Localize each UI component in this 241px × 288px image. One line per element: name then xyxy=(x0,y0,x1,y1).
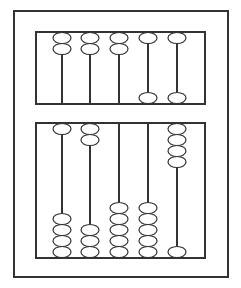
lower-deck-bead xyxy=(110,247,128,258)
lower-deck-bead xyxy=(110,236,128,247)
upper-deck-bead xyxy=(168,93,186,104)
lower-deck-bead xyxy=(110,225,128,236)
lower-deck-bead xyxy=(53,236,71,247)
upper-deck-bead xyxy=(110,44,128,55)
lower-deck-bead xyxy=(53,225,71,236)
lower-deck-bead xyxy=(139,247,157,258)
lower-deck-bead xyxy=(168,146,186,157)
upper-deck-bead xyxy=(81,33,99,44)
lower-deck-bead xyxy=(81,124,99,135)
upper-deck-bead xyxy=(53,33,71,44)
lower-deck-bead xyxy=(168,135,186,146)
upper-deck-bead xyxy=(53,44,71,55)
lower-deck-bead xyxy=(110,203,128,214)
upper-deck-bead xyxy=(81,44,99,55)
lower-deck-bead xyxy=(81,247,99,258)
lower-deck-bead xyxy=(53,247,71,258)
lower-deck-bead xyxy=(53,214,71,225)
lower-deck-bead xyxy=(139,203,157,214)
upper-deck-bead xyxy=(139,93,157,104)
lower-deck-bead xyxy=(81,236,99,247)
lower-deck-bead xyxy=(139,214,157,225)
upper-deck-bead xyxy=(168,33,186,44)
lower-deck-bead xyxy=(168,157,186,168)
lower-deck-bead xyxy=(81,135,99,146)
lower-deck-bead xyxy=(168,124,186,135)
lower-deck-bead xyxy=(81,225,99,236)
lower-deck-bead xyxy=(110,214,128,225)
lower-deck-bead xyxy=(139,236,157,247)
upper-deck-bead xyxy=(110,33,128,44)
lower-deck-bead xyxy=(53,124,71,135)
upper-deck-bead xyxy=(139,33,157,44)
lower-deck-bead xyxy=(139,225,157,236)
abacus-diagram xyxy=(0,0,241,288)
lower-deck-bead xyxy=(168,247,186,258)
